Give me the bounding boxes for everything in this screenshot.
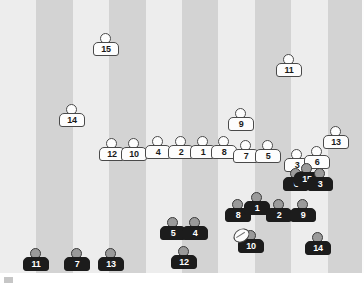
pitch-stripe [36, 0, 72, 273]
player-number: 13 [106, 259, 115, 269]
player-jersey: 9 [290, 208, 316, 222]
player-number: 12 [179, 257, 188, 267]
player-number: 10 [246, 241, 255, 251]
player-jersey: 7 [64, 257, 90, 271]
player-number: 8 [222, 147, 227, 157]
player-jersey: 15 [93, 42, 119, 56]
player-number: 10 [129, 149, 138, 159]
player-jersey: 14 [305, 241, 331, 255]
player-jersey: 2 [266, 208, 292, 222]
player-number: 2 [179, 147, 184, 157]
player-jersey: 11 [276, 63, 302, 77]
player-dark-3[interactable]: 3 [307, 168, 333, 195]
player-number: 1 [255, 203, 260, 213]
player-jersey: 13 [98, 257, 124, 271]
player-dark-4[interactable]: 4 [182, 217, 208, 244]
player-dark-2[interactable]: 2 [266, 199, 292, 226]
player-jersey: 4 [182, 226, 208, 240]
player-dark-14[interactable]: 14 [305, 232, 331, 259]
player-number: 13 [331, 137, 340, 147]
pitch-stripe [0, 0, 36, 273]
player-number: 4 [156, 147, 161, 157]
player-number: 11 [285, 65, 294, 75]
player-dark-7[interactable]: 7 [64, 248, 90, 275]
player-number: 4 [193, 228, 198, 238]
player-number: 5 [266, 151, 271, 161]
player-white-5[interactable]: 5 [255, 140, 281, 167]
bottom-left-marker [4, 277, 13, 283]
player-number: 8 [236, 210, 241, 220]
player-jersey: 9 [228, 117, 254, 131]
player-number: 7 [75, 259, 80, 269]
player-number: 9 [301, 210, 306, 220]
player-white-15[interactable]: 15 [93, 33, 119, 60]
player-jersey: 11 [23, 257, 49, 271]
player-jersey: 14 [59, 113, 85, 127]
pitch-diagram: 1511149131210421875366153812910145412117… [0, 0, 364, 288]
player-number: 7 [244, 151, 249, 161]
player-number: 12 [107, 149, 116, 159]
player-dark-12[interactable]: 12 [171, 246, 197, 273]
player-number: 11 [32, 259, 41, 269]
player-number: 2 [277, 210, 282, 220]
player-white-11[interactable]: 11 [276, 54, 302, 81]
player-white-14[interactable]: 14 [59, 104, 85, 131]
player-jersey: 3 [307, 177, 333, 191]
player-dark-13[interactable]: 13 [98, 248, 124, 275]
player-number: 15 [101, 44, 110, 54]
player-jersey: 10 [121, 147, 147, 161]
player-jersey: 5 [255, 149, 281, 163]
player-number: 1 [201, 147, 206, 157]
player-number: 14 [67, 115, 76, 125]
player-number: 14 [313, 243, 322, 253]
player-dark-10[interactable]: 10 [238, 230, 264, 257]
player-white-10[interactable]: 10 [121, 138, 147, 165]
player-number: 9 [239, 119, 244, 129]
player-number: 3 [318, 179, 323, 189]
player-number: 5 [171, 228, 176, 238]
player-dark-11[interactable]: 11 [23, 248, 49, 275]
player-white-9[interactable]: 9 [228, 108, 254, 135]
player-jersey: 12 [171, 255, 197, 269]
player-dark-9[interactable]: 9 [290, 199, 316, 226]
